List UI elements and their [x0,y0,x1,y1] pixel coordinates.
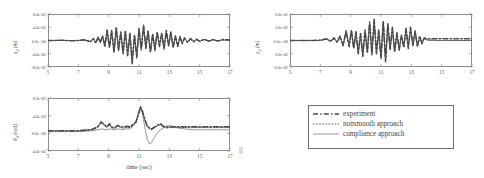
panel-top-left: xd (m) 8.0e-02 4.0e-02 0.0e+00 -4.0e-02 … [0,0,242,89]
plot-curves-bottom-left [0,89,242,178]
legend-swatch-experiment [313,110,339,118]
panel-legend: experiment nonsmooth approach compliance… [242,89,484,178]
scan-artifact [239,147,243,154]
legend-item-nonsmooth: nonsmooth approach [313,119,448,129]
legend-item-experiment: experiment [313,109,448,119]
panel-bottom-left: θd (rad) 8.0e-03 4.0e-03 0.0e+00 -4.0e-0… [0,89,242,178]
plot-curves-top-right [242,0,484,89]
legend: experiment nonsmooth approach compliance… [308,105,454,149]
legend-label: compliance approach [343,130,404,138]
legend-item-compliance: compliance approach [313,129,448,139]
legend-label: nonsmooth approach [343,120,403,128]
legend-swatch-nonsmooth [313,120,339,128]
panel-top-right: yd (m) 6.0e-02 3.0e-02 0.0e+00 -3.0e-02 … [242,0,484,89]
legend-swatch-compliance [313,130,339,138]
plot-curves-top-left [0,0,242,89]
figure-canvas: xd (m) 8.0e-02 4.0e-02 0.0e+00 -4.0e-02 … [0,0,484,178]
legend-label: experiment [343,110,375,118]
